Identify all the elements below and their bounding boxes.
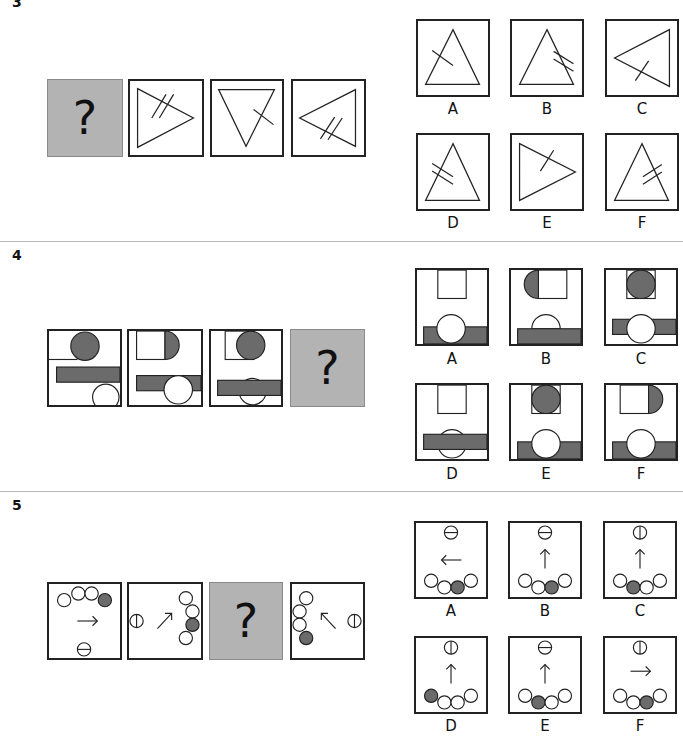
question-mark: ? xyxy=(210,583,282,659)
q5-unknown-box: ? xyxy=(209,582,283,660)
q5-option-label-B: B xyxy=(508,602,582,620)
q4-seq-3 xyxy=(209,329,283,407)
q3-option-C[interactable] xyxy=(605,19,679,97)
q3-option-label-C: C xyxy=(605,100,679,118)
q5-option-B[interactable] xyxy=(508,521,582,599)
q4-option-label-C: C xyxy=(604,350,678,368)
q5-option-label-C: C xyxy=(603,602,677,620)
q4-option-B[interactable] xyxy=(509,268,583,346)
q5-option-label-A: A xyxy=(414,602,488,620)
q5-seq-4 xyxy=(290,582,365,660)
q4-option-label-E: E xyxy=(509,465,583,483)
q3-option-B[interactable] xyxy=(510,19,584,97)
q4-option-F[interactable] xyxy=(604,383,678,461)
q3-unknown-box: ? xyxy=(47,79,123,157)
q3-option-label-E: E xyxy=(510,214,584,232)
q3-option-A[interactable] xyxy=(416,19,490,97)
q3-option-D[interactable] xyxy=(416,133,490,211)
q4-option-label-D: D xyxy=(415,465,489,483)
q3-option-label-A: A xyxy=(416,100,490,118)
q3-option-label-D: D xyxy=(416,214,490,232)
q3-seq-4 xyxy=(291,79,366,157)
q4-option-A[interactable] xyxy=(415,268,489,346)
q5-option-D[interactable] xyxy=(414,636,488,714)
q5-option-E[interactable] xyxy=(508,636,582,714)
q4-unknown-box: ? xyxy=(290,329,365,407)
q5-option-A[interactable] xyxy=(414,521,488,599)
q3-option-F[interactable] xyxy=(605,133,679,211)
question-number-3: 3 xyxy=(12,0,22,10)
q5-option-label-D: D xyxy=(414,717,488,735)
q5-seq-1 xyxy=(47,582,122,660)
q3-option-label-F: F xyxy=(605,214,679,232)
q4-option-label-A: A xyxy=(415,350,489,368)
question-number-5: 5 xyxy=(12,497,22,513)
q4-seq-1 xyxy=(47,329,122,407)
q5-option-label-F: F xyxy=(603,717,677,735)
divider xyxy=(0,241,683,242)
q4-option-C[interactable] xyxy=(604,268,678,346)
q4-option-D[interactable] xyxy=(415,383,489,461)
q4-seq-2 xyxy=(127,329,203,407)
q5-seq-2 xyxy=(127,582,203,660)
question-mark: ? xyxy=(291,330,364,406)
question-number-4: 4 xyxy=(12,247,22,263)
q3-seq-2 xyxy=(128,79,204,157)
q5-option-C[interactable] xyxy=(603,521,677,599)
q5-option-label-E: E xyxy=(508,717,582,735)
q4-option-E[interactable] xyxy=(509,383,583,461)
q5-option-F[interactable] xyxy=(603,636,677,714)
question-mark: ? xyxy=(48,80,122,156)
q4-option-label-B: B xyxy=(509,350,583,368)
q3-option-label-B: B xyxy=(510,100,584,118)
divider xyxy=(0,491,683,492)
q3-seq-3 xyxy=(210,79,284,157)
q4-option-label-F: F xyxy=(604,465,678,483)
q3-option-E[interactable] xyxy=(510,133,584,211)
